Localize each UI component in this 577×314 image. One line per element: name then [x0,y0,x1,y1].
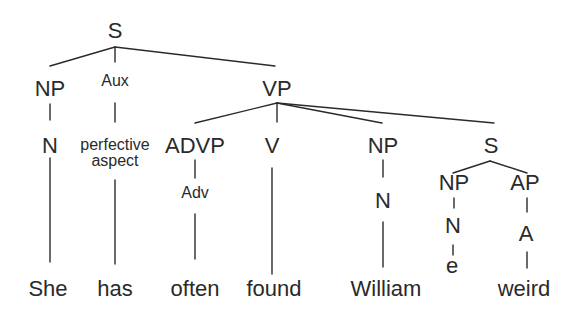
word-w6: weird [497,276,551,301]
node-n2: N [375,188,391,213]
word-w5: William [351,276,422,301]
node-v: V [265,133,280,158]
node-aux1: perfective [80,136,149,153]
node-n3: N [445,213,461,238]
node-aux: Aux [101,72,129,89]
node-a: A [519,221,534,246]
node-np1: NP [35,76,66,101]
node-e: e [446,253,458,278]
syntax-tree-diagram: SNPAuxVPNperfectiveaspectADVPVNPSAdvNNPA… [0,0,577,314]
edge-s-vp [115,47,275,66]
node-s2: S [484,133,499,158]
node-advp: ADVP [165,133,225,158]
node-s: S [108,18,123,43]
word-w4: found [246,276,301,301]
word-w1: She [28,276,67,301]
node-np2: NP [368,133,399,158]
edge-vp-advp [195,103,277,123]
word-w2: has [97,276,132,301]
tree-nodes: SNPAuxVPNperfectiveaspectADVPVNPSAdvNNPA… [28,18,550,301]
node-aux2: aspect [91,152,139,169]
word-w3: often [171,276,220,301]
node-vp: VP [262,76,291,101]
node-n1: N [42,133,58,158]
edge-vp-np2 [277,103,382,123]
node-adv: Adv [181,184,209,201]
edge-s-np1 [50,47,115,66]
node-np3: NP [439,170,470,195]
edge-vp-s2 [277,103,494,123]
node-ap: AP [510,170,539,195]
